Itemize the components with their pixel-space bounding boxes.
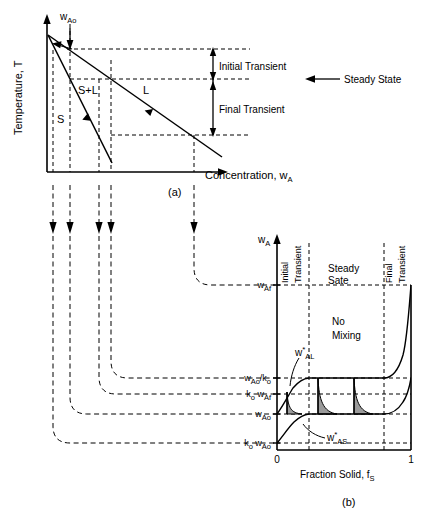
panel-b-xtick-1: 1 [408,454,414,465]
panel-b-caption: (b) [342,496,355,508]
panel-b-ytick-w-ao-over-ko: wAo/ko [243,373,271,386]
panel-b-ylabel: wA [257,234,270,248]
panel-b-zone-initial-line1: Initial [280,262,290,283]
panel-b-zone-final-line2: Transient [397,245,407,283]
panel-b-ytick-ko-w-ao: ko wAo [244,438,271,451]
panel-b-zone-steady-line1: Steady [328,263,359,274]
panel-b-solute-spikes [287,378,373,414]
panel-b-zone-nomixing-line1: No [332,316,345,327]
panel-b-zone-nomixing-line2: Mixing [332,330,361,341]
figure-root: Temperature, T Concentration, wA wAo S S… [0,0,433,512]
panel-b-ytick-w-ao: wAo [254,409,271,422]
curve-solid-interface [277,378,411,443]
panel-b-xlabel: Fraction Solid, fS [300,469,375,483]
panel-b-ytick-w-af: wAf [256,280,272,293]
panel-b-xtick-0: 0 [274,454,280,465]
panel-b-zone-final-line1: Final [384,263,394,283]
panel-b-ytick-ko-w-af: ko wAf [246,389,272,402]
panel-b-curve-label-liquid: w*AL [294,345,315,361]
panel-b-curves [277,285,411,443]
panel-b-zone-initial-line2: Transient [293,245,303,283]
panel-b-layer: wA wAf wAo/ko ko wAf wAo ko wAo 0 1 Frac… [0,0,433,512]
panel-b-zone-steady-line2: Sate [328,275,349,286]
